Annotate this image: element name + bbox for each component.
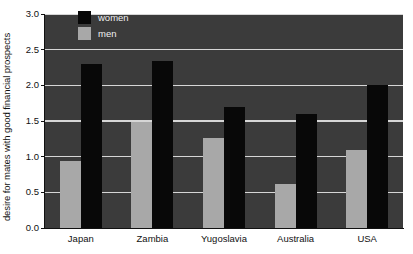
y-tick-label: 2.0 [26, 79, 39, 91]
y-tick-label: 3.0 [26, 8, 39, 20]
x-tick-label: Japan [68, 231, 94, 247]
legend-label-women: women [98, 11, 129, 24]
legend-item-women: women [78, 11, 129, 24]
bar-men-yugoslavia [203, 138, 224, 228]
y-tick-label: 0.0 [26, 222, 39, 234]
bars-layer [45, 14, 403, 228]
x-tick-label: Australia [277, 231, 314, 247]
bar-women-japan [81, 64, 102, 228]
y-axis-ticks: 0.00.51.01.52.02.53.0 [14, 0, 45, 254]
x-tick-label: Zambia [137, 231, 169, 247]
y-tick-label: 0.5 [26, 186, 39, 198]
bar-men-usa [346, 150, 367, 228]
y-tick-label: 2.5 [26, 44, 39, 56]
x-tick-label: USA [357, 231, 377, 247]
legend: women men [78, 11, 129, 40]
legend-item-men: men [78, 27, 129, 40]
y-tick: 0.0 [26, 222, 45, 234]
bar-men-japan [60, 161, 81, 228]
y-tick: 0.5 [26, 186, 45, 198]
legend-swatch-women-icon [78, 11, 91, 24]
x-axis-labels: JapanZambiaYugoslaviaAustraliaUSA [45, 231, 403, 247]
y-tick: 2.5 [26, 44, 45, 56]
legend-label-men: men [98, 27, 116, 40]
x-tick-label: Yugoslavia [201, 231, 247, 247]
plot-area [45, 14, 403, 228]
bar-women-australia [296, 114, 317, 228]
bar-women-yugoslavia [224, 107, 245, 228]
bar-women-zambia [152, 61, 173, 228]
bar-men-australia [275, 184, 296, 228]
legend-swatch-men-icon [78, 27, 91, 40]
bar-women-usa [367, 85, 388, 228]
y-tick-label: 1.0 [26, 151, 39, 163]
y-tick: 1.5 [26, 115, 45, 127]
y-tick-label: 1.5 [26, 115, 39, 127]
bar-men-zambia [131, 122, 152, 228]
y-axis-title: desire for mates with good financial pro… [0, 0, 14, 254]
x-axis-line [44, 228, 404, 229]
y-tick: 1.0 [26, 151, 45, 163]
y-tick: 3.0 [26, 8, 45, 20]
bar-chart: desire for mates with good financial pro… [0, 0, 413, 254]
y-tick: 2.0 [26, 79, 45, 91]
